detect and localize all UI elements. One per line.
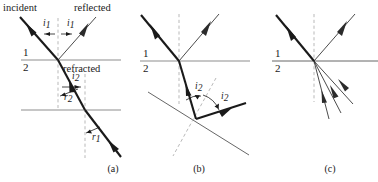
panel-a-arc-i1-left-arrow	[45, 32, 50, 36]
panel-c-refracted-ray-2	[314, 61, 341, 113]
figure-canvas: incident reflected refracted 1 2 i1 i1 i…	[0, 0, 378, 182]
optics-figure: incident reflected refracted 1 2 i1 i1 i…	[0, 0, 378, 182]
panel-b-caption: (b)	[193, 163, 205, 175]
panel-c-reflected-arrow	[337, 21, 347, 36]
panel-a-reflected-label: reflected	[74, 2, 111, 13]
panel-b-angle-i2-left: i2	[195, 81, 203, 93]
panel-b-arc-i2-left-arrow	[195, 95, 201, 100]
panel-c-medium-lower-label: 2	[275, 62, 281, 74]
panel-b-tilted-surface	[148, 92, 249, 155]
panel-c: 1 2 (c)	[272, 14, 378, 175]
panel-a-angle-r1: r1	[92, 132, 100, 144]
panel-c-caption: (c)	[324, 163, 335, 175]
panel-a-arc-i2-arrow	[75, 85, 81, 89]
panel-b: 1 2 i2 i2 (b)	[140, 14, 250, 175]
panel-a-reflected-ray	[58, 17, 96, 60]
panel-b-refracted-arrow	[186, 84, 192, 96]
panel-c-medium-upper-label: 1	[275, 47, 281, 59]
panel-a-angle-i1-left: i1	[43, 18, 50, 30]
panel-a: incident reflected refracted 1 2 i1 i1 i…	[3, 2, 121, 175]
panel-c-refracted-arrow-1	[322, 90, 328, 103]
panel-b-medium-lower-label: 2	[143, 62, 149, 74]
panel-a-medium-lower-label: 2	[23, 61, 29, 73]
panel-b-exit-ray	[196, 103, 246, 119]
panel-c-reflected-ray	[314, 14, 355, 61]
panel-a-angle-i1-right: i1	[67, 18, 74, 30]
panel-b-reflected-ray	[179, 14, 219, 61]
panel-a-caption: (a)	[107, 163, 118, 175]
panel-b-arc-i2-right-arrow	[215, 104, 220, 110]
panel-a-angle-r2: r2	[64, 92, 73, 104]
panel-a-angle-i2: i2	[72, 71, 80, 83]
panel-a-incident-label: incident	[3, 2, 37, 13]
panel-b-medium-upper-label: 1	[143, 47, 149, 59]
panel-a-arc-i1-right-arrow	[66, 32, 71, 36]
panel-a-refracted-label: refracted	[63, 63, 101, 74]
panel-a-medium-upper-label: 1	[23, 46, 29, 58]
panel-c-incident-ray	[276, 15, 314, 61]
panel-b-angle-i2-right: i2	[221, 91, 229, 103]
